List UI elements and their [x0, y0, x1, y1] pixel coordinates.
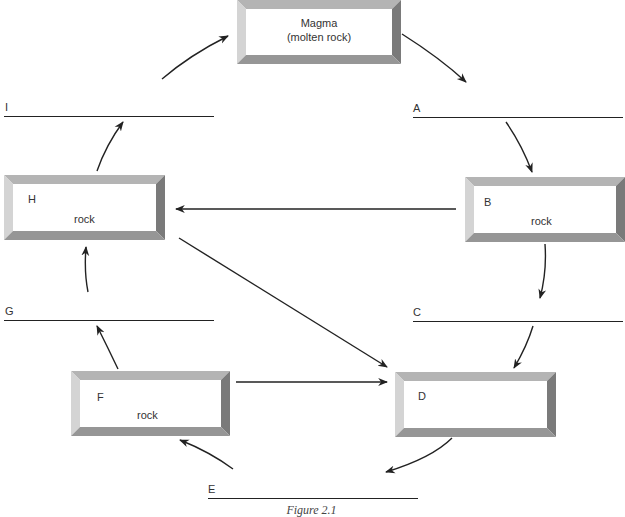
- blank-line-i[interactable]: [4, 116, 214, 117]
- box-label-h: rock: [74, 213, 95, 225]
- magma-label: Magma: [237, 17, 401, 29]
- arrow-e-to-f: [180, 440, 233, 469]
- blank-letter-g: G: [5, 305, 14, 317]
- blank-letter-a: A: [413, 102, 420, 114]
- blank-letter-c: C: [413, 306, 421, 318]
- arrow-d-to-e: [386, 438, 452, 472]
- arrow-h-to-d: [179, 238, 387, 367]
- box-letter-h: H: [28, 193, 36, 205]
- arrow-a-to-b: [506, 122, 532, 172]
- blank-line-e[interactable]: [208, 498, 418, 499]
- blank-letter-e: E: [208, 483, 215, 495]
- rock-box-b: B rock: [465, 177, 625, 242]
- arrow-i-to-magma: [162, 36, 228, 79]
- figure-caption: Figure 2.1: [0, 503, 623, 517]
- arrow-h-to-i: [97, 122, 123, 171]
- beveled-frame: [71, 371, 230, 436]
- arrow-magma-to-a: [402, 34, 466, 82]
- beveled-frame: [4, 175, 165, 240]
- arrow-b-to-c: [540, 244, 545, 298]
- blank-line-c[interactable]: [413, 321, 623, 322]
- magma-box: Magma (molten rock): [237, 0, 401, 64]
- blank-line-g[interactable]: [4, 320, 214, 321]
- box-label-b: rock: [531, 215, 552, 227]
- arrow-g-to-h: [85, 247, 88, 292]
- box-letter-d: D: [418, 390, 426, 402]
- beveled-frame: [395, 372, 556, 437]
- blank-letter-i: I: [5, 101, 8, 113]
- arrow-f-to-g: [97, 326, 118, 369]
- box-label-f: rock: [137, 409, 158, 421]
- box-letter-f: F: [97, 391, 104, 403]
- rock-box-h: H rock: [4, 175, 165, 240]
- rock-box-f: F rock: [71, 371, 230, 436]
- blank-line-a[interactable]: [413, 117, 623, 118]
- rock-box-d: D: [395, 372, 556, 437]
- magma-sublabel: (molten rock): [237, 31, 401, 43]
- beveled-frame: [465, 177, 625, 242]
- arrow-c-to-d: [514, 326, 533, 368]
- box-letter-b: B: [484, 196, 491, 208]
